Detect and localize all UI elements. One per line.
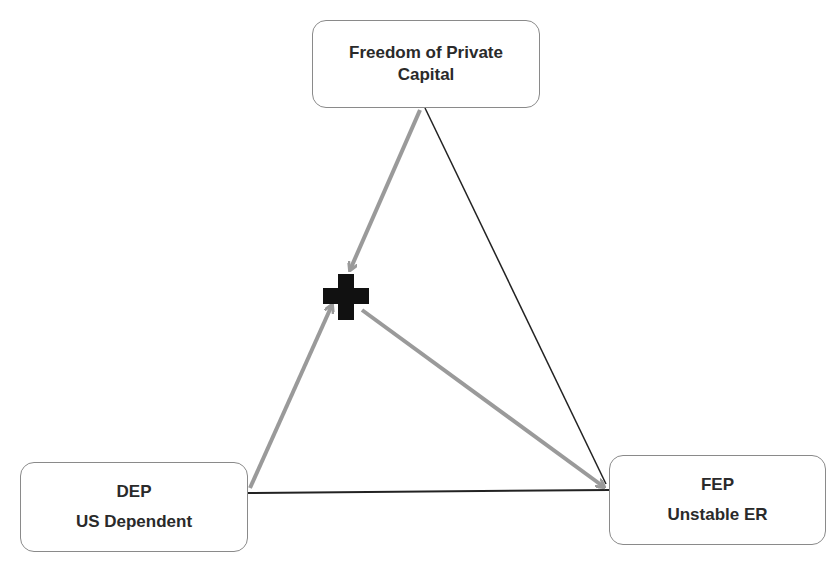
arrow-top-to-center — [350, 110, 420, 270]
node-label-line: Unstable ER — [667, 504, 767, 526]
node-label-line: Freedom of Private — [349, 42, 503, 64]
edge-top-right — [425, 108, 606, 484]
node-fep-unstable-er: FEP Unstable ER — [609, 455, 826, 545]
node-freedom-of-private-capital: Freedom of Private Capital — [312, 20, 540, 108]
node-label-line: US Dependent — [76, 511, 192, 533]
node-label-line: Capital — [398, 64, 455, 86]
edge-left-right — [248, 490, 609, 493]
arrow-center-to-right — [362, 310, 604, 487]
node-label-line: DEP — [117, 481, 152, 503]
node-label-line: FEP — [701, 474, 734, 496]
arrow-left-to-center — [250, 305, 332, 488]
node-dep-us-dependent: DEP US Dependent — [20, 462, 248, 552]
